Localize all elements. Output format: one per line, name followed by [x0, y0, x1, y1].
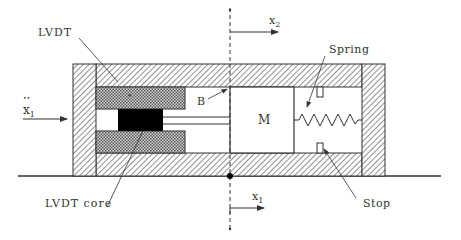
housing-top-wall	[96, 64, 362, 87]
lvdt-coil-top	[96, 87, 185, 109]
x1-accel-label: x1	[23, 103, 35, 119]
bearing-arrow	[208, 89, 227, 99]
lvdt-core-label: LVDT core	[45, 197, 112, 210]
spring-label: Spring	[329, 43, 369, 56]
lvdt-label: LVDT	[38, 26, 72, 39]
stop-label: Stop	[363, 197, 391, 210]
coil-mark: *	[128, 93, 132, 101]
reference-point	[227, 173, 233, 179]
x2-label: x2	[269, 14, 280, 29]
stop-top	[317, 87, 323, 97]
bearing-label: B	[197, 95, 205, 108]
x1-accel-dots: ••	[23, 94, 30, 101]
lvdt-coil-bottom	[96, 131, 185, 153]
housing-right-wall	[362, 64, 385, 176]
housing-left-wall	[73, 64, 96, 176]
spring	[294, 114, 362, 126]
centerline-top-dot	[229, 9, 231, 11]
centerline-bottom-dot	[229, 228, 231, 230]
mass-label: M	[258, 113, 270, 127]
stop-bottom	[317, 143, 323, 153]
x1-label: x1	[252, 190, 263, 205]
housing-bottom-wall	[96, 153, 362, 176]
lvdt-accelerometer-diagram: * M x2 x1 •• x1 LVDT LVDT core B Spring …	[0, 0, 461, 240]
lvdt-core	[118, 109, 163, 131]
